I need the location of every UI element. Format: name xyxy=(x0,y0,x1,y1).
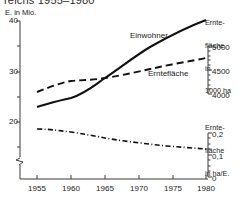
left-axis-break-icon xyxy=(16,158,23,165)
left-axis-major-ticks xyxy=(16,21,20,122)
right-bottom-axis-ticks xyxy=(208,133,212,177)
right-top-axis-ticks xyxy=(208,46,212,94)
series-line-ernteflaeche-je-einwohner xyxy=(37,129,206,149)
chart-figure: reichs 1955–1980 E. in Mio. Ernte- fläch… xyxy=(0,0,246,197)
bottom-axis-ticks xyxy=(37,175,206,179)
chart-canvas xyxy=(0,0,246,197)
series-line-ernteflaeche xyxy=(37,58,206,92)
